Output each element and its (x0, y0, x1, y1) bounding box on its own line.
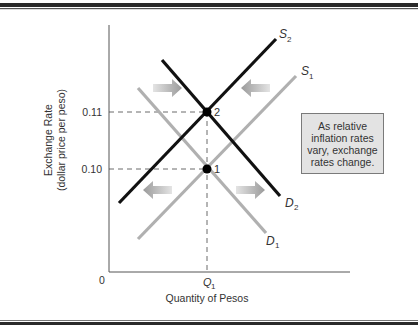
svg-text:Exchange Rate: Exchange Rate (42, 104, 54, 176)
curve-d2 (162, 60, 280, 196)
x-axis-label: Quantity of Pesos (166, 292, 249, 304)
annotation-box: As relative inflation rates vary, exchan… (301, 113, 384, 174)
arrow-right-icon (236, 181, 265, 199)
svg-text:(dollar price per peso): (dollar price per peso) (55, 89, 67, 191)
x-tick-q1: Q 1 (203, 276, 216, 291)
svg-text:1: 1 (309, 72, 314, 81)
label-d1: D 1 (266, 234, 280, 250)
bottom-border (0, 320, 418, 325)
origin-label: 0 (99, 274, 105, 286)
y-axis-label: Exchange Rate (dollar price per peso) (42, 89, 67, 191)
arrow-right-icon (153, 79, 182, 97)
arrow-left-icon (241, 79, 270, 97)
point-label-1: 1 (214, 163, 220, 175)
svg-text:2: 2 (287, 35, 292, 44)
svg-text:S: S (279, 27, 287, 41)
top-border (0, 3, 418, 9)
point-label-2: 2 (214, 106, 220, 118)
arrow-left-icon (143, 181, 172, 199)
svg-text:1: 1 (211, 282, 216, 291)
label-s1: S 1 (301, 64, 314, 81)
svg-text:D: D (266, 234, 275, 248)
svg-text:2: 2 (294, 203, 299, 212)
equilibrium-point-2 (203, 108, 212, 117)
annotation-text: As relative inflation rates vary, exchan… (304, 120, 381, 168)
svg-text:1: 1 (275, 241, 280, 250)
svg-text:S: S (301, 64, 309, 78)
label-d2: D 2 (285, 196, 299, 212)
y-tick-011: 0.11 (82, 106, 102, 118)
curve-d1 (138, 88, 266, 233)
equilibrium-point-1 (203, 165, 212, 174)
svg-text:D: D (285, 196, 294, 210)
figure-container: 2 1 S 2 S 1 D 2 D 1 0.11 0.10 0 Q 1 Quan… (0, 0, 418, 325)
y-tick-010: 0.10 (82, 163, 103, 175)
label-s2: S 2 (279, 27, 292, 44)
